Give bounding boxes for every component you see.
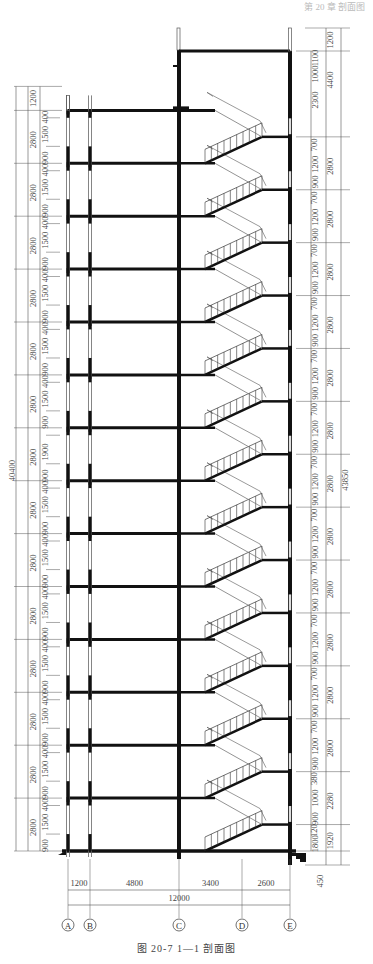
wall-sill [89, 305, 92, 322]
dimension-text: 1500 [40, 814, 50, 831]
handrail-back [207, 357, 266, 397]
dimension-text: 700 [309, 562, 319, 575]
axis-label-D: D [239, 921, 246, 931]
dimension-text: 1500 [40, 655, 50, 672]
wall-sill [89, 622, 92, 639]
wall-sill [67, 675, 70, 692]
dimension-text: 900 [40, 310, 50, 323]
dimension-text: 900 [310, 757, 320, 770]
wall-sill [67, 464, 70, 481]
window-E [289, 383, 291, 399]
dimension-text: 1200 [310, 209, 320, 226]
wall-pier [67, 587, 70, 594]
dimension-text: 900 [310, 334, 320, 347]
dimension-text: 700 [309, 138, 319, 151]
handrail-back [207, 780, 266, 820]
dimension-text: 2800 [28, 449, 38, 466]
handrail-back [207, 92, 266, 132]
dimension-text: 2800 [28, 343, 38, 360]
dimension-text: 900 [40, 628, 50, 641]
wall-pier [67, 481, 70, 488]
dimension-text: 700 [309, 667, 319, 680]
handrail-back [207, 410, 266, 450]
dimension-text: 2800 [325, 581, 335, 598]
dimension-text: 400 [40, 111, 50, 124]
wall-sill [89, 781, 92, 798]
wall-pier [67, 798, 70, 805]
wall-pier [67, 534, 70, 541]
wall-pier [67, 163, 70, 170]
dimension-text: 1200 [310, 262, 320, 279]
dimension-text: 1500 [40, 496, 50, 513]
entrance-step [292, 853, 306, 856]
window-E [289, 700, 291, 716]
handrail [205, 599, 262, 625]
stair-flight-back [215, 692, 262, 718]
handrail-back [207, 516, 266, 556]
stair-flight-back [215, 745, 262, 771]
building-structure [58, 28, 306, 865]
wall-sill [67, 517, 70, 534]
dimension-text: 400 [40, 693, 50, 706]
wall-sill [67, 622, 70, 639]
dimension-text: 900 [310, 281, 320, 294]
handrail-back [207, 727, 266, 767]
stair-flight-back [215, 534, 262, 560]
dimension-text: 2800 [28, 237, 38, 254]
handrail [205, 546, 262, 572]
wall-pier [89, 216, 92, 223]
wall-sill [67, 728, 70, 745]
window-E [289, 224, 291, 240]
stair-flight [205, 825, 262, 851]
wall-pier [89, 534, 92, 541]
entrance-step [296, 856, 306, 859]
dimension-text: 4400 [325, 72, 335, 89]
dimension-text: 900 [310, 704, 320, 717]
wall-sill [67, 781, 70, 798]
window-E [289, 330, 291, 346]
dimension-text: 40400 [7, 460, 17, 481]
dimension-text: 1500 [40, 391, 50, 408]
dimension-text: 400 [40, 164, 50, 177]
dimension-text: 900 [40, 151, 50, 164]
dimension-text: 700 [309, 403, 319, 416]
dimension-text: 2800 [28, 766, 38, 783]
dimension-text: 1200 [310, 420, 320, 437]
axis-markers: ABCDE [62, 859, 296, 931]
dimension-text: 700 [309, 509, 319, 522]
dimension-text: 1200 [310, 526, 320, 543]
wall-C [177, 50, 181, 859]
dimension-text: 2800 [325, 158, 335, 175]
dimension-text: 1500 [40, 761, 50, 778]
dimension-text: 900 [310, 440, 320, 453]
dimension-text: 2800 [325, 634, 335, 651]
wall-pier [67, 269, 70, 276]
dimension-text: 900 [310, 175, 320, 188]
wall-sill [89, 199, 92, 216]
dimension-text: 1500 [40, 602, 50, 619]
dimension-text: 2800 [325, 264, 335, 281]
dimension-text: 2800 [325, 211, 335, 228]
wall-sill [67, 252, 70, 269]
bracket [173, 65, 178, 67]
dimension-text: 1200 [310, 367, 320, 384]
handrail-back [207, 198, 266, 238]
dimension-text: 1200 [310, 473, 320, 490]
wall-pier [89, 322, 92, 329]
handrail [205, 387, 262, 413]
wall-sill [67, 305, 70, 322]
window-E [289, 489, 291, 505]
dimension-text: 1920 [325, 832, 335, 849]
dimension-text: 1200 [325, 32, 335, 49]
wall-pier [89, 745, 92, 752]
window-E [289, 806, 291, 822]
dimension-text: 400 [40, 534, 50, 547]
dimension-text: 1500 [40, 126, 50, 143]
dimension-text: 2800 [28, 660, 38, 677]
section-drawing: 4040012002800900150040028009001500400280… [0, 0, 373, 964]
wall-pier [89, 481, 92, 488]
dimension-text: 900 [310, 546, 320, 559]
handrail [205, 705, 262, 731]
dimension-text: 900 [310, 599, 320, 612]
window-E [289, 171, 291, 187]
